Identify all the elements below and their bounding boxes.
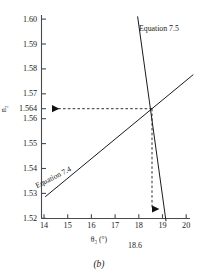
x-tick-label-20: 20 (182, 221, 190, 230)
x-tick-label-14: 14 (40, 221, 48, 230)
x-tick-label-17: 17 (111, 221, 119, 230)
intersection-x-value-label: 18.6 (128, 241, 142, 250)
x-tick-label-18: 18 (135, 221, 143, 230)
figure-caption: (b) (93, 259, 104, 269)
x-axis-title: θ₃ (°) (91, 235, 107, 244)
x-tick-label-15: 15 (64, 221, 72, 230)
figure-panel-b: 1.60 1.59 1.58 1.57 1.564 1.56 1.55 1.54… (0, 0, 197, 280)
y-axis-title: n₂ (0, 106, 8, 112)
x-tick-label-19: 19 (158, 221, 166, 230)
x-tick-label-16: 16 (87, 221, 95, 230)
series-label-equation-7-5: Equation 7.5 (139, 24, 179, 33)
